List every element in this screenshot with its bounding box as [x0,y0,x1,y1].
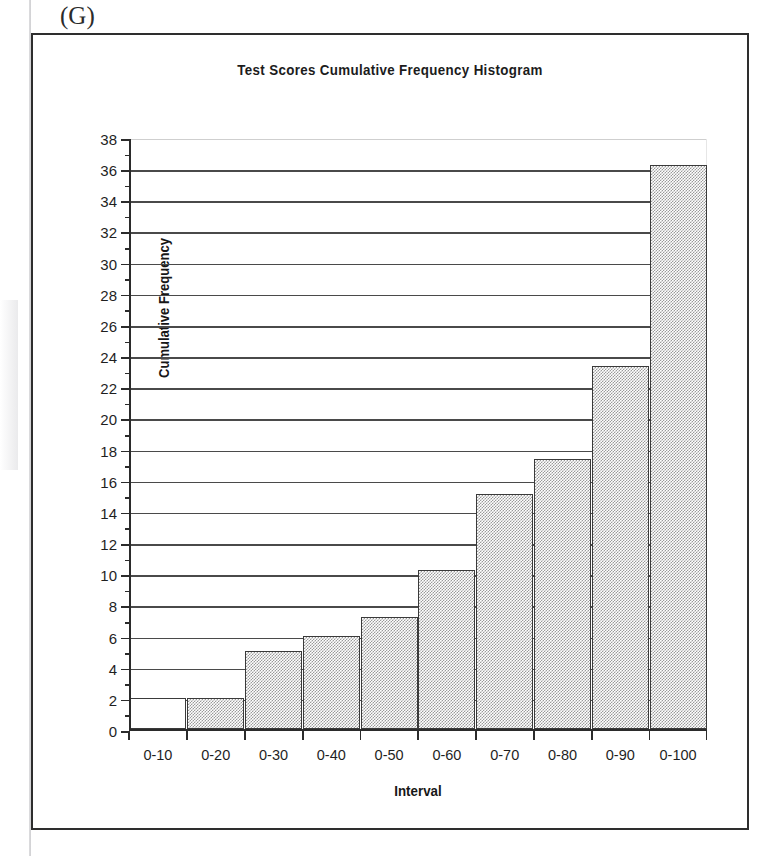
y-axis-tick [121,232,129,234]
gridline [129,264,707,266]
x-axis-tick-label: 0-10 [143,747,172,763]
y-axis-tick [121,264,129,266]
y-axis-tick [121,482,129,484]
y-axis-tick-label: 12 [77,536,117,553]
bar [650,165,707,729]
x-axis-tick [128,731,130,740]
y-axis-tick-label: 34 [77,193,117,210]
y-axis-tick-label: 22 [77,380,117,397]
bar [592,366,649,729]
x-axis-tick [591,731,593,740]
x-axis-title: Interval [152,783,684,799]
x-axis-tick [186,731,188,740]
y-axis-tick-label: 28 [77,286,117,303]
y-axis-tick [121,451,129,453]
y-axis-tick [121,139,129,141]
y-axis-tick [121,201,129,203]
chart-canvas: Cumulative Frequency 0246810121416182022… [33,35,751,832]
y-axis-tick-label: 32 [77,224,117,241]
x-axis-tick [302,731,304,740]
y-axis-tick-label: 38 [77,131,117,148]
y-axis-tick-label: 4 [77,660,117,677]
y-axis-tick [121,544,129,546]
x-axis-tick-label: 0-70 [490,747,519,763]
x-axis-tick-label: 0-90 [606,747,635,763]
y-axis-tick-label: 16 [77,473,117,490]
gridline [129,201,707,203]
bar [245,651,302,729]
figure-label: (G) [60,2,95,30]
x-axis-tick-label: 0-40 [317,747,346,763]
y-axis-tick-label: 30 [77,255,117,272]
y-axis-tick [121,638,129,640]
y-axis-tick [121,326,129,328]
y-axis-tick-label: 6 [77,629,117,646]
y-axis-tick-label: 2 [77,691,117,708]
bar [361,617,418,729]
bar [129,698,186,729]
gridline [129,295,707,297]
gridline [129,326,707,328]
gridline [129,170,707,172]
bar [534,459,591,729]
y-axis-tick [121,513,129,515]
gridline [129,232,707,234]
y-axis-tick-label: 0 [77,723,117,740]
y-axis-tick [121,700,129,702]
bar [303,636,360,729]
y-axis-tick-label: 20 [77,411,117,428]
x-axis-tick-label: 0-100 [660,747,697,763]
top-gridline [129,139,707,140]
x-axis-tick [533,731,535,740]
bar [418,570,475,729]
x-axis-tick-label: 0-50 [375,747,404,763]
y-axis-tick-label: 18 [77,442,117,459]
y-axis-tick-label: 8 [77,598,117,615]
bar [476,494,533,729]
y-axis-tick [121,669,129,671]
x-axis-tick-label: 0-30 [259,747,288,763]
y-axis-tick-label: 10 [77,567,117,584]
y-axis-tick [121,388,129,390]
x-axis-tick [706,731,708,740]
x-axis-tick-label: 0-60 [432,747,461,763]
figure-frame: Test Scores Cumulative Frequency Histogr… [31,33,749,830]
scan-artifact-smudge [0,300,18,470]
x-axis-line [129,729,707,731]
y-axis-tick [121,575,129,577]
y-axis-tick-label: 24 [77,349,117,366]
y-axis-tick-label: 14 [77,504,117,521]
y-axis-line [129,139,131,731]
y-axis-tick-label: 36 [77,162,117,179]
x-axis-tick [475,731,477,740]
y-axis-tick [121,170,129,172]
gridline [129,357,707,359]
bar [187,698,244,729]
y-axis-tick [121,419,129,421]
y-axis-tick-label: 26 [77,317,117,334]
y-axis-tick [121,357,129,359]
y-axis-tick [121,606,129,608]
plot-area: 02468101214161820222426283032343638 0-10… [129,139,707,731]
x-axis-tick [360,731,362,740]
x-axis-tick-label: 0-20 [201,747,230,763]
x-axis-tick [649,731,651,740]
y-axis-tick [121,295,129,297]
x-axis-tick [417,731,419,740]
x-axis-tick-label: 0-80 [548,747,577,763]
x-axis-tick [244,731,246,740]
